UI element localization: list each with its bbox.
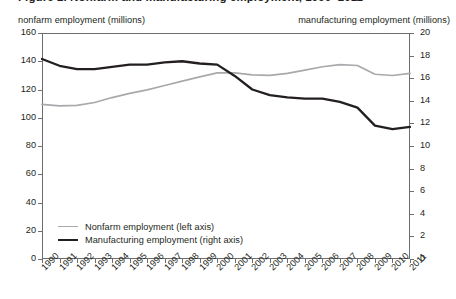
y-axis-left-tick-label: 140	[21, 56, 36, 65]
right-axis-caption: manufacturing employment (millions)	[298, 15, 450, 25]
y-axis-right-tick-label: 4	[420, 209, 425, 218]
x-axis-tick-label: 2011	[408, 252, 428, 272]
y-axis-right-tick-mark	[410, 146, 414, 147]
y-axis-right-tick-mark	[410, 169, 414, 170]
y-axis-right-tick-label: 10	[420, 141, 430, 150]
y-axis-right-tick-label: 6	[420, 186, 425, 195]
y-axis-right-tick-label: 12	[420, 118, 430, 127]
y-axis-right-tick-mark	[410, 56, 414, 57]
y-axis-left-tick-label: 120	[21, 85, 36, 94]
legend-item-nonfarm[interactable]: Nonfarm employment (left axis)	[58, 220, 243, 233]
legend-item-label: Nonfarm employment (left axis)	[85, 222, 214, 232]
chart-title-remnant: Figure 2. Nonfarm and manufacturing empl…	[0, 0, 456, 4]
y-axis-left-tick-label: 100	[21, 113, 36, 122]
y-axis-right-tick-mark	[410, 191, 414, 192]
chart-legend: Nonfarm employment (left axis)Manufactur…	[58, 220, 243, 246]
legend-line-swatch-icon	[58, 239, 78, 241]
y-axis-left-tick-label: 60	[26, 169, 36, 178]
chart-container: Figure 2. Nonfarm and manufacturing empl…	[0, 0, 456, 299]
y-axis-right-tick-label: 18	[420, 51, 430, 60]
legend-line-swatch-icon	[58, 226, 78, 227]
y-axis-right-tick-label: 2	[420, 231, 425, 240]
y-axis-right-tick-mark	[410, 123, 414, 124]
y-axis-left-tick-label: 80	[26, 141, 36, 150]
y-axis-right-tick-label: 16	[420, 73, 430, 82]
y-axis-left-tick-label: 40	[26, 198, 36, 207]
y-axis-left-tick-mark	[38, 146, 42, 147]
legend-item-label: Manufacturing employment (right axis)	[85, 235, 243, 245]
y-axis-right-tick-mark	[410, 78, 414, 79]
y-axis-left-tick-mark	[38, 118, 42, 119]
y-axis-left-tick-mark	[38, 174, 42, 175]
y-axis-right-tick-label: 8	[420, 164, 425, 173]
y-axis-left-tick-mark	[38, 90, 42, 91]
y-axis-left-tick-label: 20	[26, 226, 36, 235]
y-axis-right-tick-mark	[410, 33, 414, 34]
y-axis-right-tick-label: 14	[420, 96, 430, 105]
y-axis-right-tick-mark	[410, 214, 414, 215]
y-axis-left-tick-mark	[38, 61, 42, 62]
y-axis-right-tick-mark	[410, 236, 414, 237]
y-axis-left-tick-label: 0	[31, 254, 36, 263]
y-axis-right-tick-mark	[410, 101, 414, 102]
y-axis-left-tick-mark	[38, 203, 42, 204]
y-axis-left-tick-mark	[38, 33, 42, 34]
y-axis-right-tick-label: 20	[420, 28, 430, 37]
legend-item-manufacturing[interactable]: Manufacturing employment (right axis)	[58, 233, 243, 246]
y-axis-left-tick-label: 160	[21, 28, 36, 37]
y-axis-left-tick-mark	[38, 231, 42, 232]
left-axis-caption: nonfarm employment (millions)	[18, 15, 145, 25]
